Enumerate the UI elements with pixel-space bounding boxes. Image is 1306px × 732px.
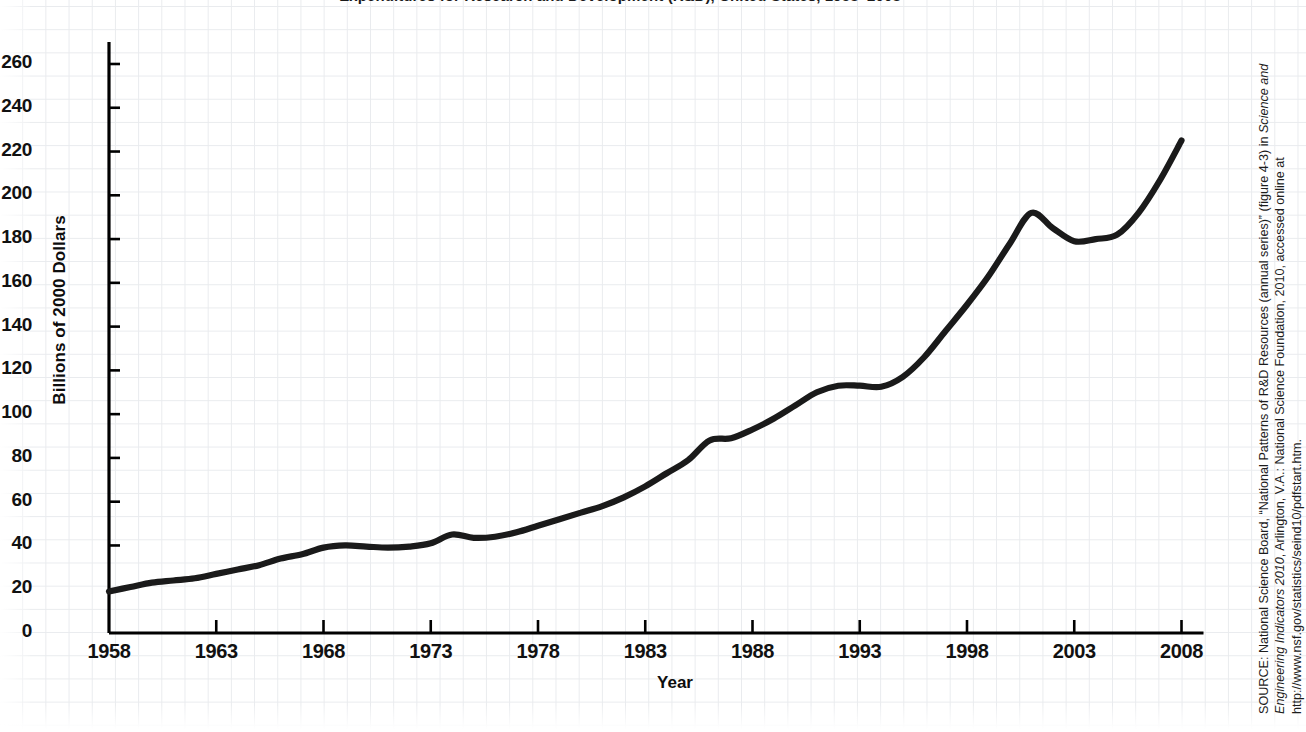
x-tick-label: 2003 (1028, 640, 1120, 663)
source-note: SOURCE: National Science Board, “Nationa… (1244, 0, 1306, 732)
x-tick-label: 1963 (170, 640, 262, 663)
x-tick-label: 1998 (921, 640, 1013, 663)
x-tick-label: 2008 (1136, 640, 1228, 663)
y-tick-label: 180 (1, 226, 32, 248)
x-tick-label: 1993 (814, 640, 906, 663)
x-tick-label: 1978 (492, 640, 584, 663)
y-tick-label: 240 (1, 95, 32, 117)
y-tick-label: 160 (1, 270, 32, 292)
figure-title-strip: Expenditures for Research and Developmen… (0, 0, 1306, 11)
y-tick-label: 40 (11, 532, 32, 554)
y-tick-label: 0 (22, 620, 32, 642)
x-tick-label: 1988 (707, 640, 799, 663)
y-tick-label: 80 (11, 445, 32, 467)
source-note-text: SOURCE: National Science Board, “Nationa… (1256, 14, 1305, 714)
ticks-group (109, 64, 1182, 633)
chart-svg (0, 0, 1240, 732)
y-tick-label: 140 (1, 314, 32, 336)
data-line-series (109, 141, 1182, 592)
y-tick-label: 20 (11, 576, 32, 598)
y-axis-title: Billions of 2000 Dollars (50, 180, 70, 440)
x-tick-label: 1968 (278, 640, 370, 663)
figure-title: Expenditures for Research and Developmen… (0, 0, 1240, 4)
y-tick-label: 220 (1, 139, 32, 161)
chart-plot-area: Billions of 2000 Dollars Year 0204060801… (0, 0, 1240, 732)
axes-group (109, 42, 1204, 633)
x-tick-label: 1958 (63, 640, 155, 663)
y-tick-label: 60 (11, 489, 32, 511)
y-tick-label: 120 (1, 357, 32, 379)
x-axis-title: Year (585, 673, 765, 693)
source-note-prefix: SOURCE: National Science Board, “Nationa… (1257, 133, 1271, 714)
y-tick-label: 200 (1, 182, 32, 204)
y-tick-label: 100 (1, 401, 32, 423)
x-tick-label: 1973 (385, 640, 477, 663)
x-tick-label: 1983 (599, 640, 691, 663)
y-tick-label: 260 (1, 51, 32, 73)
